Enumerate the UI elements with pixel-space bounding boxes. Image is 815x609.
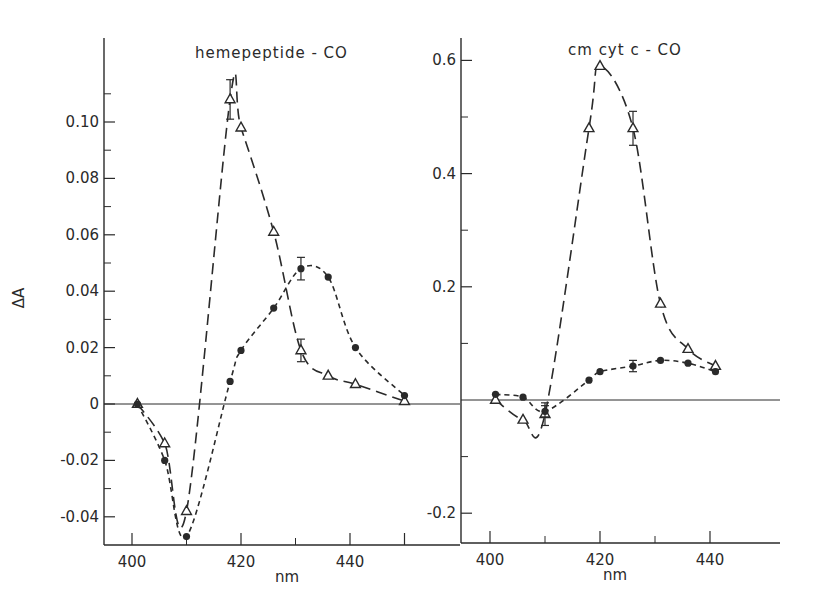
data-point-circle [629,362,636,369]
y-tick-label: 0.2 [432,278,456,296]
triangles-series-line [137,73,404,528]
x-tick-label: 400 [476,551,505,569]
data-point-circle [596,368,603,375]
panel-cm-cyt-c: cm cyt c - CO nm -0.20.20.40.6400420440 [427,38,780,584]
data-point-circle [325,274,332,281]
panel-title: cm cyt c - CO [568,41,682,59]
y-tick-label: 0.02 [66,339,99,357]
y-tick-label: 0.04 [66,282,99,300]
data-point-triangle [323,370,333,379]
y-tick-label: -0.02 [60,451,99,469]
data-point-triangle [628,123,638,132]
data-point-circle [352,344,359,351]
data-point-triangle [296,345,306,354]
data-point-triangle [160,438,170,447]
x-tick-label: 400 [118,553,147,571]
panel-title: hemepeptide - CO [195,44,348,62]
x-tick-label: 420 [227,553,256,571]
data-point-circle [657,357,664,364]
data-point-triangle [584,123,594,132]
data-point-triangle [225,94,235,103]
plot-area [491,61,721,438]
data-point-triangle [656,298,666,307]
y-tick-label: 0.6 [432,51,456,69]
data-point-circle [227,378,234,385]
figure: hemepeptide - CO ΔA nm -0.04-0.0200.020.… [0,0,815,609]
x-axis-label: nm [275,568,299,586]
data-point-circle [237,347,244,354]
data-point-circle [541,408,548,415]
data-point-circle [134,400,141,407]
data-point-triangle [236,122,246,131]
y-tick-label: 0 [89,395,99,413]
axes: -0.20.20.40.6400420440 [427,38,780,569]
data-point-triangle [269,226,279,235]
data-point-circle [684,360,691,367]
data-point-circle [297,265,304,272]
data-point-circle [712,368,719,375]
data-point-circle [270,305,277,312]
triangles-series-line [496,66,716,438]
data-point-circle [519,394,526,401]
x-tick-label: 420 [586,551,615,569]
y-tick-label: -0.2 [427,504,456,522]
data-point-circle [492,391,499,398]
data-point-circle [183,533,190,540]
plot-area [133,73,410,540]
data-point-circle [161,457,168,464]
y-tick-label: -0.04 [60,508,99,526]
x-tick-label: 440 [336,553,365,571]
y-tick-label: 0.4 [432,165,456,183]
data-point-circle [401,392,408,399]
data-point-triangle [518,414,528,423]
data-point-circle [585,377,592,384]
data-point-triangle [595,61,605,70]
panel-hemepeptide: hemepeptide - CO ΔA nm -0.04-0.0200.020.… [10,38,460,586]
x-tick-label: 440 [696,551,725,569]
y-tick-label: 0.10 [66,113,99,131]
axes: -0.04-0.0200.020.040.060.080.10400420440 [60,38,460,571]
y-tick-label: 0.06 [66,226,99,244]
circles-series-line [496,360,716,411]
y-axis-label: ΔA [10,287,28,308]
data-point-triangle [182,506,192,515]
y-tick-label: 0.08 [66,169,99,187]
